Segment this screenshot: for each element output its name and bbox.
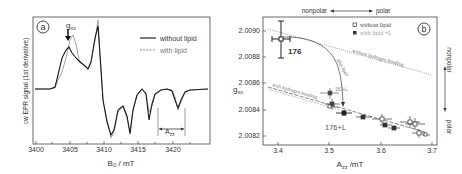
top-arrow-right-icon <box>369 10 373 13</box>
panel-a-xtick-labels: 3400 3405 3410 3415 3420 <box>28 146 181 153</box>
label-176: 176 <box>288 47 302 56</box>
panel-b-badge: b <box>421 24 426 34</box>
xtick-3.4: 3.4 <box>273 147 283 154</box>
legend-without-lipid-b: without lipid <box>360 22 391 28</box>
xtick-3.7: 3.7 <box>427 147 437 154</box>
top-polar-label: polar <box>376 7 391 15</box>
top-arrow-left-icon <box>330 10 334 13</box>
ytick-2.0090: 2.0090 <box>239 27 261 34</box>
legend-filled-square-icon <box>353 31 357 35</box>
plus-lipid-arrowhead-icon <box>341 102 345 107</box>
right-arrow-down-icon <box>444 108 447 112</box>
ytick-2.0088: 2.0088 <box>239 53 261 60</box>
panel-b-ytick-labels: 2.0090 2.0088 2.0086 2.0084 2.0082 <box>239 27 261 139</box>
panel-b-frame <box>263 17 437 145</box>
legend-open-square-icon <box>353 23 357 27</box>
ytick-2.0082: 2.0082 <box>239 132 261 139</box>
panel-a: 3400 3405 3410 3415 3420 B₀ / mT cw EPR … <box>22 17 210 168</box>
xtick-3.6: 3.6 <box>376 147 386 154</box>
panel-b-xtick-labels: 3.4 3.5 3.6 3.7 <box>273 147 437 154</box>
tick-3400: 3400 <box>28 146 44 153</box>
tick-3410: 3410 <box>96 146 112 153</box>
panel-b-yticks <box>263 31 266 136</box>
panel-b: nonpolar polar nonpolar polar 2.0090 2.0… <box>233 7 453 170</box>
figure: 3400 3405 3410 3415 3420 B₀ / mT cw EPR … <box>0 0 462 174</box>
tick-3405: 3405 <box>62 146 78 153</box>
legend-with-lipid: with lipid <box>159 47 187 55</box>
panel-b-xlabel: Azz /mT <box>337 160 364 170</box>
label-without-hbond: without hydrogen bonding <box>352 48 405 67</box>
panel-a-xticks <box>36 141 190 144</box>
panel-a-badge: a <box>40 22 45 32</box>
tick-3420: 3420 <box>165 146 181 153</box>
panel-a-xlabel: B₀ / mT <box>108 159 135 168</box>
legend-without-lipid: without lipid <box>159 35 197 43</box>
tick-3415: 3415 <box>130 146 146 153</box>
label-with-hbond: with hydrogen bonding <box>272 82 319 100</box>
point-cluster-polar <box>356 114 430 138</box>
azz-annotation: Azz <box>158 108 185 137</box>
right-polar-label: polar <box>445 120 453 135</box>
top-nonpolar-label: nonpolar <box>302 7 328 15</box>
line-with-hbond <box>268 87 425 132</box>
label-183L: 183+L <box>335 87 348 92</box>
label-176L: 176+L <box>325 123 346 132</box>
ytick-2.0084: 2.0084 <box>239 106 261 113</box>
point-176L <box>336 110 352 116</box>
ytick-2.0086: 2.0086 <box>239 79 261 86</box>
xtick-3.5: 3.5 <box>324 147 334 154</box>
panel-b-xticks <box>278 142 432 145</box>
legend-with-lipid-b: with lipid +L <box>360 30 392 36</box>
panel-b-ylabel: gxx <box>233 85 243 95</box>
panel-a-ylabel: cw EPR signal (1st derivative) <box>22 38 30 124</box>
point-cluster-351 <box>325 99 340 110</box>
spectrum-without-lipid <box>35 26 208 135</box>
